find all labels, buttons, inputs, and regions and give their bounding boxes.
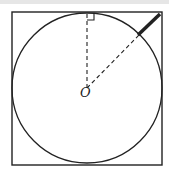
- dashed-radius-diagonal: [87, 35, 139, 88]
- thick-segment-to-corner: [138, 14, 160, 35]
- center-label: O: [80, 85, 91, 100]
- geometry-diagram: O: [0, 0, 169, 173]
- right-angle-marker: [87, 13, 94, 20]
